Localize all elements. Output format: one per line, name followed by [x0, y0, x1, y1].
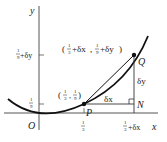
- y-tick-label-1-9: 1 9: [29, 97, 33, 109]
- delta-x-label: δx: [104, 94, 113, 104]
- svg-text:9: 9: [30, 104, 33, 109]
- svg-text:+δy: +δy: [20, 51, 32, 60]
- point-q-label: Q: [138, 56, 146, 67]
- y-tick-label-1-9-plus-dy: 1 9 +δy: [16, 48, 32, 60]
- svg-text:,: ,: [69, 91, 71, 100]
- svg-text:): ): [119, 44, 122, 54]
- svg-text:1: 1: [82, 120, 85, 125]
- svg-text:1: 1: [124, 120, 127, 125]
- svg-text:3: 3: [124, 127, 127, 132]
- origin-label: O: [28, 120, 35, 131]
- svg-text:): ): [78, 90, 81, 100]
- svg-text:1: 1: [96, 43, 99, 48]
- svg-text:,: ,: [90, 44, 92, 54]
- svg-text:3: 3: [68, 50, 71, 55]
- calculus-diagram: y x O P Q N δx δy ( 1 3 , 1 9 ) ( 1 3 +δ…: [0, 0, 167, 142]
- point-n-label: N: [136, 99, 145, 110]
- point-q-coordinates: ( 1 3 +δx , 1 9 +δy ): [62, 43, 122, 55]
- x-axis-label: x: [151, 121, 157, 132]
- point-q: [132, 53, 136, 57]
- y-axis-label: y: [29, 5, 35, 16]
- svg-text:+δy: +δy: [100, 44, 114, 54]
- right-angle-marker: [129, 99, 134, 104]
- x-tick-label-1-3: 1 3: [81, 120, 85, 132]
- svg-text:+δx: +δx: [128, 123, 140, 132]
- svg-text:(: (: [62, 44, 65, 54]
- svg-text:1: 1: [68, 43, 71, 48]
- point-p-coordinates: ( 1 3 , 1 9 ): [58, 89, 81, 101]
- point-p-label: P: [85, 107, 92, 118]
- svg-text:3: 3: [64, 96, 67, 101]
- svg-text:1: 1: [30, 97, 33, 102]
- x-tick-label-1-3-plus-dx: 1 3 +δx: [123, 120, 140, 132]
- svg-text:3: 3: [82, 127, 85, 132]
- point-p: [82, 102, 86, 106]
- svg-text:(: (: [58, 90, 61, 100]
- svg-text:9: 9: [96, 50, 99, 55]
- svg-text:+δx: +δx: [72, 44, 86, 54]
- svg-text:9: 9: [74, 96, 77, 101]
- delta-y-label: δy: [137, 76, 146, 86]
- svg-text:1: 1: [74, 89, 77, 94]
- svg-text:1: 1: [64, 89, 67, 94]
